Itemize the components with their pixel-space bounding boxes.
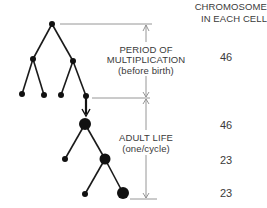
node-level2-right: [70, 58, 76, 64]
phase-multiplication-label-2: MULTIPLICATION: [107, 54, 186, 65]
multiplication-tree-nodes: [19, 21, 89, 99]
column-header-line1: CHROMOSOMES: [195, 1, 267, 12]
chromosome-count-gamete-2: 23: [220, 187, 232, 199]
transition-arrow: [82, 96, 90, 116]
cell-lineage-diagram: [0, 0, 267, 208]
phase-adult-label-2: (one/cycle): [122, 143, 170, 154]
node-adult-stem-1: [79, 118, 91, 130]
chromosome-count-multiplication: 46: [220, 51, 232, 63]
node-level2-left: [30, 56, 36, 62]
adult-tree: [65, 124, 123, 194]
phase-multiplication-label-3: (before birth): [118, 65, 174, 76]
phase-adult-label-1: ADULT LIFE: [119, 132, 173, 143]
node-adult-gamete-1: [62, 156, 68, 162]
node-adult-stem-3: [117, 187, 129, 199]
node-leaf-2: [41, 92, 47, 98]
node-adult-gamete-2: [82, 191, 88, 197]
node-root: [49, 21, 55, 27]
chromosome-count-adult-stem: 46: [220, 119, 232, 131]
node-leaf-3: [58, 92, 64, 98]
column-header-line2: IN EACH CELL: [201, 13, 267, 24]
node-leaf-1: [19, 91, 25, 97]
chromosome-count-gamete-1: 23: [220, 154, 232, 166]
node-adult-stem-2: [100, 154, 111, 165]
